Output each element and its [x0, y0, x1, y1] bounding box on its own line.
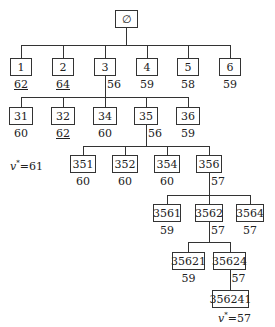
tree-node-32: 32 [51, 107, 75, 125]
edge-to-2 [63, 45, 64, 58]
edge-to-5 [188, 45, 189, 58]
annotation-text: =57 [228, 312, 251, 325]
tree-node-356: 356 [196, 155, 222, 173]
tree-node-3561: 3561 [153, 204, 181, 222]
tree-node-6: 6 [219, 58, 241, 76]
tree-node-351: 351 [70, 155, 96, 173]
edge-to-4 [147, 45, 148, 58]
tree-node-2: 2 [52, 58, 74, 76]
edge-level1-bar [21, 45, 231, 46]
tree-node-35621: 35621 [172, 252, 205, 270]
tree-node-4: 4 [136, 58, 158, 76]
tree-node-35: 35 [134, 107, 158, 125]
node-value-3561: 59 [160, 225, 174, 237]
edge-to-35624 [230, 242, 231, 252]
search-tree-diagram: ∅ 16226435645955865931603262346035563659… [0, 0, 275, 327]
edge-to-354 [167, 146, 168, 155]
node-value-4: 59 [140, 79, 154, 91]
edge-level3-bar [83, 146, 210, 147]
tree-node-3564: 3564 [236, 204, 264, 222]
edge-3-down [105, 76, 106, 97]
tree-node-356241: 356241 [212, 290, 249, 308]
node-value-3: 56 [107, 79, 121, 91]
node-value-351: 60 [76, 176, 90, 188]
edge-to-3564 [250, 195, 251, 204]
node-value-352: 60 [118, 176, 132, 188]
node-value-2: 64 [56, 79, 70, 91]
node-value-36: 59 [181, 128, 195, 140]
edge-to-356 [209, 146, 210, 155]
edge-3562-down [209, 222, 210, 242]
tree-node-3562: 3562 [195, 204, 223, 222]
tree-node-35624: 35624 [213, 252, 246, 270]
edge-356-down [209, 173, 210, 195]
node-value-35: 56 [148, 128, 162, 140]
node-value-3562: 57 [211, 225, 225, 237]
edge-to-6 [230, 45, 231, 58]
edge-to-36 [188, 97, 189, 107]
tree-node-3: 3 [94, 58, 116, 76]
tree-node-5: 5 [177, 58, 199, 76]
node-value-31: 60 [14, 128, 28, 140]
node-value-356: 57 [211, 176, 225, 188]
node-value-6: 59 [223, 79, 237, 91]
edge-to-352 [125, 146, 126, 155]
annotation-v-star-57: v*=57 [218, 311, 251, 325]
edge-to-1 [21, 45, 22, 58]
tree-node-31: 31 [9, 107, 33, 125]
edge-to-3561 [167, 195, 168, 204]
node-value-35624: 57 [232, 273, 246, 285]
tree-node-36: 36 [176, 107, 200, 125]
tree-node-354: 354 [154, 155, 180, 173]
node-value-1: 62 [14, 79, 28, 91]
edge-35-down [146, 125, 147, 146]
edge-to-31 [21, 97, 22, 107]
edge-root-down [126, 28, 127, 45]
edge-to-351 [83, 146, 84, 155]
root-node: ∅ [115, 10, 138, 28]
tree-node-352: 352 [112, 155, 138, 173]
annotation-v-star-61: v*=61 [10, 159, 43, 173]
edge-to-3 [105, 45, 106, 58]
node-value-5: 58 [181, 79, 195, 91]
annotation-text: =61 [20, 160, 43, 173]
edge-to-35621 [188, 242, 189, 252]
edge-to-32 [63, 97, 64, 107]
edge-to-34 [105, 97, 106, 107]
node-value-354: 60 [160, 176, 174, 188]
node-value-35621: 59 [182, 273, 196, 285]
edge-to-35 [146, 97, 147, 107]
node-value-32: 62 [56, 128, 70, 140]
node-value-34: 60 [98, 128, 112, 140]
tree-node-1: 1 [10, 58, 32, 76]
tree-node-34: 34 [93, 107, 117, 125]
node-value-3564: 57 [243, 225, 257, 237]
edge-to-3562 [209, 195, 210, 204]
edge-level5-bar [188, 242, 231, 243]
